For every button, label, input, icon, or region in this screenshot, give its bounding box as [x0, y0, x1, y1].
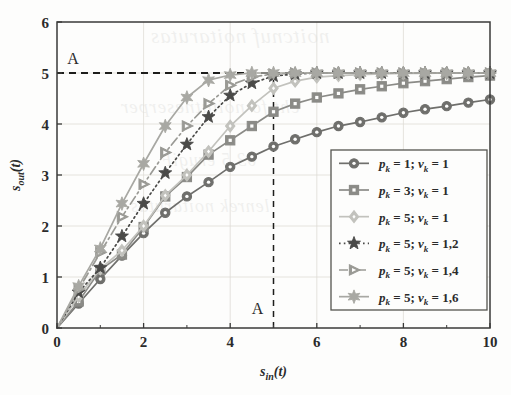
- legend-item-label: pk = 5; vk = 1,4: [378, 263, 459, 280]
- marker-square-hole: [294, 102, 297, 105]
- marker-circle-hole: [337, 124, 340, 127]
- marker-square-hole: [380, 85, 383, 88]
- marker-circle-hole: [250, 155, 253, 158]
- marker-circle-hole: [467, 101, 470, 104]
- y-tick-label: 6: [42, 15, 50, 31]
- legend-item-4[interactable]: pk = 5; vk = 1,4: [332, 257, 486, 284]
- marker-star6: [138, 157, 150, 171]
- marker-circle-hole: [358, 120, 361, 123]
- legend-item-1[interactable]: pk = 3; vk = 1: [332, 177, 486, 204]
- marker-circle-hole: [402, 111, 405, 114]
- marker-square-hole: [359, 88, 362, 91]
- annotation-a-top: A: [67, 50, 79, 67]
- svg-text:sin(t): sin(t): [259, 364, 287, 382]
- chart-legend[interactable]: pk = 1; vk = 1pk = 3; vk = 1pk = 5; vk =…: [331, 150, 487, 310]
- marker-star6: [116, 197, 128, 211]
- y-tick-label: 5: [42, 66, 50, 82]
- y-tick-label: 0: [42, 321, 50, 337]
- marker-circle-hole: [272, 145, 275, 148]
- marker-square-hole: [272, 110, 275, 113]
- marker-square-hole: [337, 92, 340, 95]
- legend-item-2[interactable]: pk = 5; vk = 1: [332, 203, 486, 230]
- x-tick-label: 8: [400, 334, 408, 350]
- y-axis-title: sout(t): [8, 159, 26, 192]
- legend-item-5[interactable]: pk = 5; vk = 1,6: [332, 283, 486, 310]
- marker-circle-hole: [207, 180, 210, 183]
- annotation-a-bottom: A: [252, 300, 264, 317]
- y-tick-label: 2: [42, 219, 50, 235]
- legend-item-3[interactable]: pk = 5; vk = 1,2: [332, 230, 486, 257]
- y-tick-label: 1: [42, 270, 50, 286]
- saturation-function-chart: 02468100123456 sin(t)sout(t) AA pk = 1; …: [0, 0, 511, 395]
- marker-star5: [115, 229, 128, 241]
- marker-star5: [202, 110, 215, 122]
- marker-circle-hole: [352, 162, 355, 165]
- x-tick-label: 0: [53, 334, 61, 350]
- y-tick-label: 4: [42, 117, 50, 133]
- legend-item-0[interactable]: pk = 1; vk = 1: [332, 150, 486, 177]
- marker-square-hole: [402, 82, 405, 85]
- marker-circle-hole: [445, 104, 448, 107]
- axis-title-layer: sin(t)sout(t): [8, 159, 287, 382]
- x-axis-title: sin(t): [259, 364, 287, 382]
- marker-star6: [203, 73, 215, 87]
- marker-circle-hole: [185, 195, 188, 198]
- x-tick-label: 4: [226, 334, 234, 350]
- y-tick-label: 3: [42, 168, 50, 184]
- marker-square-hole: [250, 124, 253, 127]
- marker-square-hole: [229, 139, 232, 142]
- marker-square-hole: [352, 188, 355, 191]
- x-tick-label: 10: [483, 334, 498, 350]
- marker-circle-hole: [229, 165, 232, 168]
- x-tick-label: 6: [313, 334, 321, 350]
- legend-item-label: pk = 5; vk = 1,2: [378, 236, 458, 253]
- marker-circle-hole: [380, 116, 383, 119]
- marker-circle-hole: [164, 211, 167, 214]
- marker-circle-hole: [99, 277, 102, 280]
- marker-circle-hole: [293, 138, 296, 141]
- marker-circle-hole: [315, 130, 318, 133]
- x-tick-label: 2: [140, 334, 148, 350]
- marker-circle-hole: [423, 108, 426, 111]
- svg-text:sout(t): sout(t): [8, 159, 26, 192]
- marker-square-hole: [315, 96, 318, 99]
- marker-star5: [159, 166, 172, 178]
- legend-item-label: pk = 5; vk = 1,6: [378, 290, 459, 307]
- figure-root: noitcnuf noitarutas eht fo noitatneserpe…: [0, 0, 511, 395]
